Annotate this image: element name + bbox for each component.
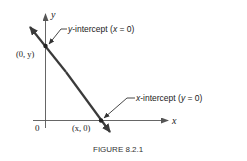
y-intercept-annotation: y-intercept (x = 0) xyxy=(67,24,135,34)
linear-function-line xyxy=(30,27,66,72)
x-axis-label: x xyxy=(171,115,177,126)
y-intercept-point xyxy=(43,44,47,48)
y-intercept-pointer xyxy=(49,29,67,44)
figure-caption: FIGURE 8.2.1 xyxy=(93,145,144,154)
y-intercept-coord-label: (0, y) xyxy=(16,49,35,59)
intercepts-diagram: y x 0 (0, y) (x, 0) y-intercept (x = 0) … xyxy=(0,0,247,161)
y-axis-label: y xyxy=(50,9,56,20)
x-intercept-point xyxy=(99,118,103,122)
x-intercept-coord-label: (x, 0) xyxy=(72,123,91,133)
x-intercept-annotation: x-intercept (y = 0) xyxy=(135,93,203,103)
x-intercept-pointer xyxy=(104,98,135,118)
origin-label: 0 xyxy=(35,123,40,133)
